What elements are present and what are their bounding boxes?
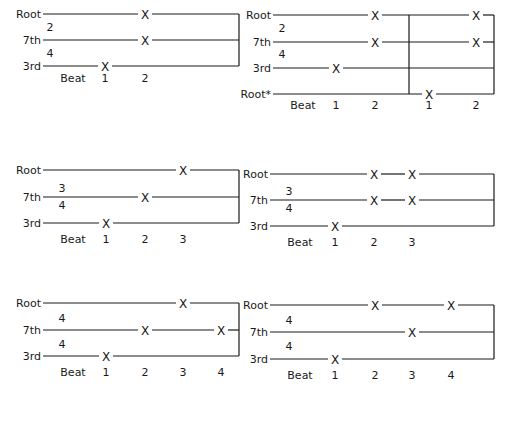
time-signature-top: 3 xyxy=(286,185,293,198)
beat-number: 1 xyxy=(102,72,109,85)
voice-row-root-star: Root*X xyxy=(241,88,494,102)
x-marker: X xyxy=(141,8,149,22)
x-marker: X xyxy=(179,297,187,311)
beat-row: Beat1212 xyxy=(290,99,479,112)
voice-label: Root* xyxy=(241,88,272,101)
time-signature-top: 2 xyxy=(47,21,54,34)
x-marker: X xyxy=(179,164,187,178)
diagram-four-four-b: RootXX7thX3rdX44Beat1234 xyxy=(243,299,494,383)
voice-leading-diagrams: RootX7thX3rdX24Beat12RootXX7thXX3rdXRoot… xyxy=(0,0,507,424)
voice-row-7th: 7thXX xyxy=(253,36,494,50)
diagram-three-four-b: RootXX7thXX3rdX34Beat123 xyxy=(243,168,494,250)
beat-number: 2 xyxy=(371,236,378,249)
voice-leading-figure: RootX7thX3rdX24Beat12RootXX7thXX3rdXRoot… xyxy=(0,0,507,424)
voice-row-3rd: 3rdX xyxy=(250,220,494,234)
voice-label: 3rd xyxy=(253,62,271,75)
voice-row-3rd: 3rdX xyxy=(23,217,239,231)
x-marker: X xyxy=(408,168,416,182)
voice-label: Root xyxy=(243,299,269,312)
time-signature-bottom: 4 xyxy=(279,48,286,61)
voice-row-7th: 7thXX xyxy=(23,324,239,338)
voice-label: Root xyxy=(246,9,272,22)
x-marker: X xyxy=(141,324,149,338)
voice-row-3rd: 3rdX xyxy=(23,350,239,364)
beat-number: 2 xyxy=(142,233,149,246)
voice-label: 7th xyxy=(253,36,271,49)
voice-label: 3rd xyxy=(23,60,41,73)
x-marker: X xyxy=(371,9,379,23)
time-signature-bottom: 4 xyxy=(286,202,293,215)
beat-number: 2 xyxy=(473,99,480,112)
beat-label: Beat xyxy=(287,369,313,382)
time-signature-top: 2 xyxy=(279,22,286,35)
voice-label: Root xyxy=(16,297,42,310)
x-marker: X xyxy=(141,34,149,48)
beat-row: Beat123 xyxy=(287,236,415,249)
beat-row: Beat12 xyxy=(60,72,148,85)
time-signature-top: 4 xyxy=(286,314,293,327)
time-signature-bottom: 4 xyxy=(47,47,54,60)
diagram-two-four: RootX7thX3rdX24Beat12 xyxy=(16,8,239,86)
time-signature-top: 3 xyxy=(59,182,66,195)
x-marker: X xyxy=(408,194,416,208)
voice-label: 3rd xyxy=(250,220,268,233)
time-signature-bottom: 4 xyxy=(59,199,66,212)
voice-row-7th: 7thX xyxy=(250,326,494,340)
time-signature-bottom: 4 xyxy=(59,338,66,351)
voice-label: 7th xyxy=(250,194,268,207)
voice-row-root: RootXX xyxy=(243,299,494,313)
voice-label: 3rd xyxy=(23,350,41,363)
beat-number: 1 xyxy=(332,236,339,249)
beat-number: 3 xyxy=(180,233,187,246)
x-marker: X xyxy=(331,220,339,234)
voice-label: 7th xyxy=(23,191,41,204)
diagram-three-four: RootX7thX3rdX34Beat123 xyxy=(16,164,239,247)
x-marker: X xyxy=(472,36,480,50)
voice-row-root: RootXX xyxy=(246,9,494,23)
x-marker: X xyxy=(371,36,379,50)
voice-row-root: RootX xyxy=(16,164,239,178)
x-marker: X xyxy=(332,62,340,76)
diagram-two-four-two-bars: RootXX7thXX3rdXRoot*X24Beat1212 xyxy=(241,9,494,113)
x-marker: X xyxy=(102,350,110,364)
x-marker: X xyxy=(370,194,378,208)
x-marker: X xyxy=(141,191,149,205)
voice-row-7th: 7thX xyxy=(23,34,239,48)
beat-number: 2 xyxy=(372,369,379,382)
voice-row-3rd: 3rdX xyxy=(23,60,239,74)
beat-label: Beat xyxy=(60,233,86,246)
beat-label: Beat xyxy=(60,72,86,85)
x-marker: X xyxy=(447,299,455,313)
voice-label: 7th xyxy=(23,324,41,337)
time-signature-top: 4 xyxy=(59,312,66,325)
beat-number: 3 xyxy=(409,369,416,382)
beat-number: 1 xyxy=(333,99,340,112)
beat-number: 3 xyxy=(409,236,416,249)
x-marker: X xyxy=(370,168,378,182)
voice-label: 3rd xyxy=(250,353,268,366)
beat-number: 1 xyxy=(103,366,110,379)
x-marker: X xyxy=(472,9,480,23)
time-signature: 44 xyxy=(59,312,66,351)
voice-row-root: RootX xyxy=(16,8,239,22)
diagram-four-four: RootX7thXX3rdX44Beat1234 xyxy=(16,297,239,380)
voice-row-3rd: 3rdX xyxy=(253,62,494,76)
beat-number: 3 xyxy=(180,366,187,379)
time-signature-bottom: 4 xyxy=(286,340,293,353)
beat-row: Beat1234 xyxy=(60,366,224,379)
beat-number: 1 xyxy=(103,233,110,246)
beat-number: 2 xyxy=(142,366,149,379)
voice-row-3rd: 3rdX xyxy=(250,353,494,367)
beat-number: 1 xyxy=(426,99,433,112)
beat-number: 4 xyxy=(218,366,225,379)
voice-label: Root xyxy=(16,164,42,177)
voice-label: Root xyxy=(16,8,42,21)
beat-row: Beat123 xyxy=(60,233,186,246)
x-marker: X xyxy=(102,217,110,231)
voice-label: Root xyxy=(243,168,269,181)
beat-label: Beat xyxy=(60,366,86,379)
voice-label: 7th xyxy=(250,326,268,339)
voice-row-7th: 7thX xyxy=(23,191,239,205)
beat-label: Beat xyxy=(290,99,316,112)
beat-number: 4 xyxy=(448,369,455,382)
